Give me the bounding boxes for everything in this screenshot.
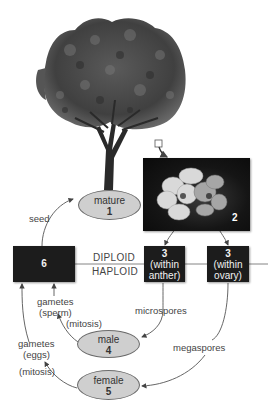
mitosis-female-label: (mitosis) bbox=[19, 366, 55, 377]
stage-male-label: male bbox=[78, 331, 139, 345]
stage-mature-label: mature bbox=[79, 191, 140, 206]
gametes-eggs-label-2: (eggs) bbox=[23, 349, 50, 360]
flower-photo: 2 bbox=[143, 158, 250, 231]
stage-male-gametophyte: male 4 bbox=[77, 330, 140, 358]
stage-3-anther-number: 3 bbox=[144, 248, 185, 259]
stage-6-zygote-box: 6 bbox=[13, 246, 75, 282]
stage-male-number: 4 bbox=[78, 345, 139, 356]
stage-3-ovary-line1: (within bbox=[207, 259, 249, 270]
stage-3-anther-box: 3 (within anther) bbox=[144, 246, 185, 282]
stage-female-number: 5 bbox=[78, 386, 139, 397]
stage-3-anther-line1: (within bbox=[144, 259, 185, 270]
stage-3-ovary-box: 3 (within ovary) bbox=[207, 246, 249, 282]
megaspores-label: megaspores bbox=[173, 342, 225, 353]
diploid-label: DIPLOID bbox=[93, 252, 135, 263]
stage-3-ovary-number: 3 bbox=[207, 248, 249, 259]
stage-female-label: female bbox=[78, 371, 139, 386]
stage-3-anther-line2: anther) bbox=[144, 270, 185, 281]
gametes-eggs-label-1: gametes bbox=[18, 338, 54, 349]
mitosis-male-label: (mitosis) bbox=[66, 318, 102, 329]
gametes-sperm-label-2: (sperm) bbox=[39, 307, 72, 318]
stage-3-ovary-line2: ovary) bbox=[207, 270, 249, 281]
stage-6-number: 6 bbox=[41, 258, 47, 269]
stage-mature-number: 1 bbox=[79, 206, 140, 217]
stage-mature-sporophyte: mature 1 bbox=[78, 190, 141, 220]
stage-2-number: 2 bbox=[232, 212, 238, 223]
seed-label: seed bbox=[29, 213, 50, 224]
gametes-sperm-label-1: gametes bbox=[37, 296, 73, 307]
microspores-label: microspores bbox=[135, 305, 187, 316]
callout-square bbox=[155, 140, 162, 147]
stage-female-gametophyte: female 5 bbox=[77, 370, 140, 400]
haploid-label: HAPLOID bbox=[92, 266, 138, 277]
